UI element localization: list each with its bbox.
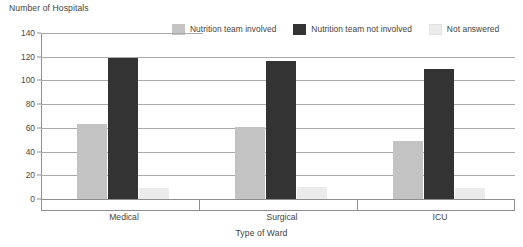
y-tick-label-140: 140 xyxy=(21,28,35,38)
bar-icu-nutrition-team-involved xyxy=(393,141,423,199)
y-tick-label-100: 100 xyxy=(21,75,35,85)
bars-layer xyxy=(41,33,515,199)
category-label-medical: Medical xyxy=(109,212,139,222)
plot-area: 020406080100120140 xyxy=(41,33,515,199)
bar-icu-nutrition-team-not-involved xyxy=(424,69,454,199)
bar-icu-not-answered xyxy=(455,188,485,199)
category-separator-0 xyxy=(41,199,42,211)
y-tick-label-120: 120 xyxy=(21,52,35,62)
category-separator-3 xyxy=(514,199,515,211)
category-axis-line xyxy=(41,210,515,211)
category-separator-1 xyxy=(199,199,200,211)
y-tick-label-20: 20 xyxy=(26,170,35,180)
category-separator-2 xyxy=(357,199,358,211)
category-label-surgical: Surgical xyxy=(266,212,297,222)
y-tick-label-60: 60 xyxy=(26,123,35,133)
bar-surgical-nutrition-team-not-involved xyxy=(266,61,296,199)
category-label-icu: ICU xyxy=(433,212,448,222)
bar-medical-not-answered xyxy=(139,188,169,199)
x-axis-title: Type of Ward xyxy=(0,228,523,238)
y-tick-label-40: 40 xyxy=(26,147,35,157)
bar-medical-nutrition-team-not-involved xyxy=(108,58,138,199)
bar-chart: Number of Hospitals Nutrition team invol… xyxy=(0,0,523,247)
y-tick-label-80: 80 xyxy=(26,99,35,109)
bar-medical-nutrition-team-involved xyxy=(77,124,107,199)
bar-surgical-nutrition-team-involved xyxy=(235,127,265,199)
bar-surgical-not-answered xyxy=(297,187,327,199)
y-tick-label-0: 0 xyxy=(30,194,35,204)
category-axis: MedicalSurgicalICU xyxy=(41,199,515,221)
y-axis-title: Number of Hospitals xyxy=(9,3,89,13)
